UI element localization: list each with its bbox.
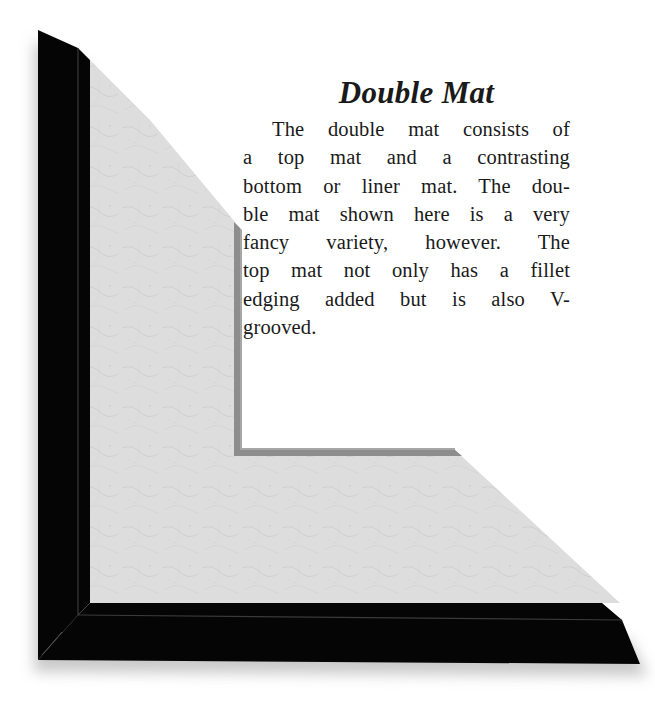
body-line: a top mat and a contrasting (243, 143, 570, 171)
heading: Double Mat (263, 73, 570, 113)
body-line: grooved. (243, 313, 570, 341)
frame-left-leg (38, 30, 90, 660)
body-line: top mat not only has a fillet (243, 256, 570, 284)
caption: Double Mat The double mat consists of a … (243, 73, 570, 341)
frame-bottom-leg (38, 603, 640, 664)
body-line: fancy variety, however. The (243, 228, 570, 256)
body-line: ble mat shown here is a very (243, 200, 570, 228)
body-line: edging added but is also V- (243, 285, 570, 313)
body-line: The double mat consists of (243, 115, 570, 143)
body-paragraph: The double mat consists of a top mat and… (243, 115, 570, 341)
body-line: bottom or liner mat. The dou- (243, 172, 570, 200)
